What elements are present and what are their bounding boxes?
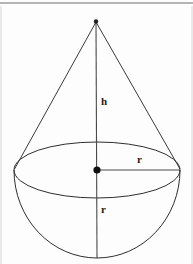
radius-label-horizontal: r [137, 154, 142, 165]
geometry-figure: h r r [0, 0, 193, 264]
radius-label-vertical: r [101, 204, 106, 215]
center-point [93, 166, 100, 173]
height-label: h [101, 96, 107, 107]
figure-canvas [0, 0, 193, 264]
apex-point [94, 19, 98, 23]
cone-left-edge [15, 22, 97, 169]
vertical-axis [96, 22, 97, 258]
cone-right-edge [96, 22, 180, 169]
